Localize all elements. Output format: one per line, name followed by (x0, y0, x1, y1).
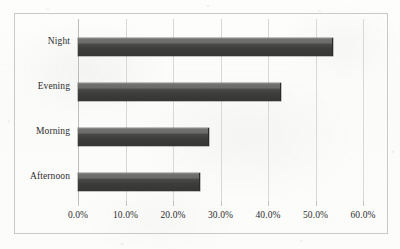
scanned-page-background: Night Evening Morning Afternoon 0.0% 10.… (0, 0, 400, 249)
bar-morning[interactable] (78, 128, 209, 146)
x-tick-label-10: 10.0% (103, 210, 149, 220)
gridline-60 (363, 19, 364, 201)
bar-afternoon[interactable] (78, 173, 200, 191)
scan-speck (206, 5, 210, 7)
tick-20 (173, 201, 174, 206)
plot-area (78, 19, 377, 201)
bar-evening[interactable] (78, 83, 281, 101)
x-tick-label-30: 30.0% (198, 210, 244, 220)
tick-40 (268, 201, 269, 206)
x-tick-label-50: 50.0% (293, 210, 339, 220)
bar-night[interactable] (78, 38, 333, 56)
x-tick-label-0: 0.0% (55, 210, 101, 220)
scan-speck (392, 150, 394, 153)
tick-50 (316, 201, 317, 206)
scan-speck (318, 10, 321, 12)
scan-speck (8, 120, 10, 123)
scan-speck (300, 240, 303, 242)
x-tick-label-20: 20.0% (150, 210, 196, 220)
chart-frame: Night Evening Morning Afternoon 0.0% 10.… (14, 13, 388, 234)
x-tick-label-40: 40.0% (245, 210, 291, 220)
tick-30 (221, 201, 222, 206)
tick-0 (78, 201, 79, 206)
tick-60 (363, 201, 364, 206)
category-label-evening: Evening (0, 81, 70, 91)
tick-10 (126, 201, 127, 206)
category-label-night: Night (0, 36, 70, 46)
scan-speck (46, 8, 49, 10)
x-tick-label-60: 60.0% (340, 210, 386, 220)
category-label-morning: Morning (0, 126, 70, 136)
scan-speck (120, 243, 124, 245)
category-label-afternoon: Afternoon (0, 171, 70, 181)
